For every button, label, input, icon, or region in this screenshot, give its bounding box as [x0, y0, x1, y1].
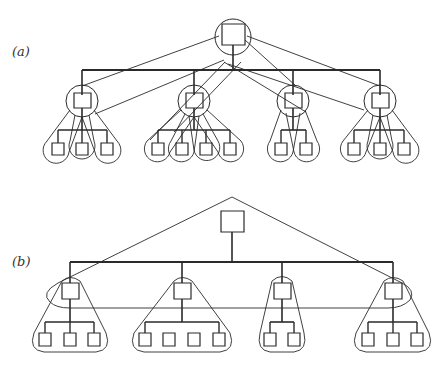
- panel-b: [32, 197, 430, 352]
- panel-a-cluster-1: [43, 85, 121, 163]
- panel-b-cluster-2: [132, 278, 231, 353]
- panel-a-enclosure-lines: [82, 36, 380, 140]
- panel-a: [43, 19, 419, 163]
- panel-b-root-node: [221, 211, 244, 232]
- panel-a-cluster-3: [267, 85, 319, 162]
- hierarchy-diagram-figure: (a) (b): [0, 0, 439, 366]
- panel-b-cluster-1: [32, 278, 107, 353]
- panel-b-cluster-3: [259, 277, 305, 353]
- panel-a-cluster-2: [144, 85, 243, 162]
- panel-b-cluster-4: [354, 278, 430, 353]
- panel-a-cluster-4: [340, 85, 418, 163]
- panel-b-top-enclosure: [46, 197, 411, 308]
